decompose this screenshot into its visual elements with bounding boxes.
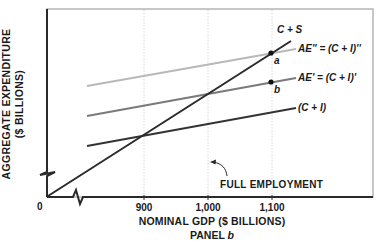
y-axis-label-line1: AGGREGATE EXPENDITURE <box>0 24 13 184</box>
y-axis-label: AGGREGATE EXPENDITURE ($ BILLIONS) <box>0 24 32 184</box>
chart-canvas <box>0 0 379 247</box>
full-employment-label: FULL EMPLOYMENT <box>220 179 323 190</box>
label-c-plus-s: C + S <box>277 24 302 35</box>
x-tick-1000: 1,000 <box>195 202 220 213</box>
origin-label: 0 <box>37 201 43 212</box>
x-axis-label: NOMINAL GDP ($ BILLIONS) <box>92 215 332 227</box>
point-a-label: a <box>274 55 280 66</box>
panel-letter: b <box>228 229 234 241</box>
x-tick-900: 900 <box>136 202 153 213</box>
panel-word: PANEL <box>190 229 225 241</box>
line-c-plus-s <box>48 41 291 196</box>
line-c-plus-i <box>87 108 296 146</box>
arrowhead-icon <box>210 160 216 165</box>
full-employment-arrow <box>214 162 227 176</box>
label-ae-double-prime: AE'' = (C + I)'' <box>298 43 361 54</box>
panel-label: PANEL b <box>92 229 332 241</box>
line-ae-prime <box>87 78 296 116</box>
point-a <box>268 50 273 55</box>
label-c-plus-i: (C + I) <box>298 102 326 113</box>
point-b <box>268 79 273 84</box>
point-b-label: b <box>274 84 280 95</box>
y-axis <box>40 9 55 197</box>
x-tick-1100: 1,100 <box>259 202 284 213</box>
line-ae-double-prime <box>87 49 296 86</box>
label-ae-prime: AE' = (C + I)' <box>298 72 356 83</box>
y-axis-label-line2: ($ BILLIONS) <box>13 24 26 184</box>
